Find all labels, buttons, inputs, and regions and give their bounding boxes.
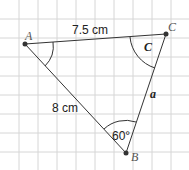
angle-b-label: 60°: [112, 129, 130, 143]
vertex-b-dot: [124, 151, 129, 156]
vertex-b-label: B: [131, 150, 139, 164]
vertex-a-label: A: [24, 29, 33, 43]
angle-arc-b: [104, 120, 136, 129]
vertex-c-label: C: [168, 20, 177, 34]
angle-arc-a: [45, 42, 53, 66]
side-bc-label: a: [150, 87, 156, 101]
triangle-diagram: A B C 7.5 cm 8 cm a C 60°: [0, 0, 189, 170]
side-ac-label: 7.5 cm: [72, 23, 108, 37]
angle-c-label: C: [144, 40, 153, 54]
side-ab-label: 8 cm: [52, 101, 78, 115]
